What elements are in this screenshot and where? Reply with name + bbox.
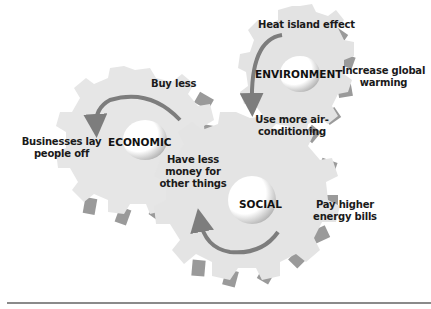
effect-less-money: Have less money for other things (158, 154, 228, 190)
gear-label-social: SOCIAL (239, 198, 282, 210)
effect-energy-bills: Pay higher energy bills (305, 199, 385, 223)
effect-increase-warming: Increase global warming (336, 65, 431, 89)
effect-businesses-lay-off: Businesses lay people off (14, 136, 109, 160)
gear-label-economic: ECONOMIC (108, 136, 172, 148)
effect-buy-less: Buy less (151, 78, 196, 90)
gear-label-environment: ENVIRONMENT (255, 68, 342, 80)
gear-diagram: ENVIRONMENT ECONOMIC SOCIAL Heat island … (0, 0, 431, 309)
bottom-divider (7, 302, 431, 304)
effect-heat-island: Heat island effect (258, 19, 355, 31)
effect-air-conditioning: Use more air- conditioning (247, 114, 337, 138)
